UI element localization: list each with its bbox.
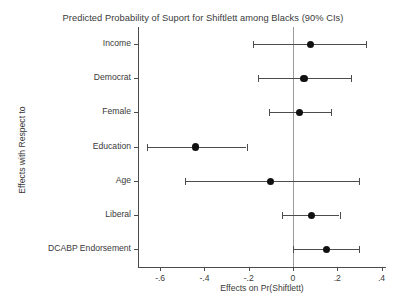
ci-lower-cap [293,246,294,253]
x-axis-tick [293,267,294,271]
x-axis-tick-label: -.6 [155,273,165,283]
x-axis-tick-label: .2 [334,273,341,283]
x-axis-tick-label: .4 [378,273,385,283]
ci-lower-cap [269,109,270,116]
estimate-marker [267,178,274,185]
y-axis-tick-label: Democrat [94,72,131,82]
ci-upper-cap [351,75,352,82]
y-axis-tick [134,78,138,79]
x-axis-title: Effects on Pr(Shiftlett) [138,283,386,293]
chart-title: Predicted Probability of Suport for Shif… [0,13,406,23]
estimate-marker [308,212,315,219]
estimate-marker [323,246,330,253]
x-axis-tick [249,267,250,271]
ci-upper-cap [366,41,367,48]
estimate-marker [307,41,314,48]
zero-reference-line [293,27,294,267]
ci-lower-cap [258,75,259,82]
y-axis-tick-label: Age [116,175,131,185]
y-axis-tick-label: Education [93,141,131,151]
ci-lower-cap [147,144,148,151]
y-axis-tick-label: Female [102,106,131,116]
x-axis-tick [382,267,383,271]
y-axis-tick [134,181,138,182]
y-axis-tick-label: DCABP Endorsement [48,243,131,253]
y-axis-spine [138,27,139,267]
forest-plot-figure: Predicted Probability of Suport for Shif… [0,0,406,304]
estimate-marker [300,75,307,82]
ci-lower-cap [282,212,283,219]
y-axis-title: Effects with Respect to [17,70,27,230]
x-axis-tick [337,267,338,271]
y-axis-tick [134,112,138,113]
x-axis-tick-label: -.4 [199,273,209,283]
x-axis-spine [138,267,386,268]
ci-upper-cap [247,144,248,151]
estimate-marker [192,143,199,150]
y-axis-tick [134,215,138,216]
ci-lower-cap [253,41,254,48]
y-axis-tick-label: Income [103,38,131,48]
ci-upper-cap [331,109,332,116]
ci-upper-cap [340,212,341,219]
plot-area: IncomeDemocratFemaleEducationAgeLiberalD… [138,27,386,267]
y-axis-tick [134,44,138,45]
estimate-marker [296,109,303,116]
y-axis-tick-label: Liberal [105,209,131,219]
x-axis-tick-label: 0 [291,273,296,283]
ci-lower-cap [185,178,186,185]
y-axis-tick [134,249,138,250]
x-axis-tick [204,267,205,271]
y-axis-tick [134,147,138,148]
x-axis-tick [160,267,161,271]
ci-upper-cap [359,178,360,185]
x-axis-tick-label: -.2 [244,273,254,283]
ci-upper-cap [359,246,360,253]
